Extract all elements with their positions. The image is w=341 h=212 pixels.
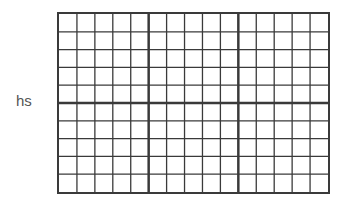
row-label: hs <box>16 92 32 110</box>
grid <box>57 12 330 194</box>
grid-lines <box>59 14 328 192</box>
